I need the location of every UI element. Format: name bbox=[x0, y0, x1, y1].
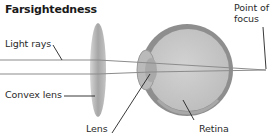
convex-lens-shape bbox=[90, 23, 106, 117]
label-point-of-focus: Point of focus bbox=[234, 2, 275, 24]
label-point-of-focus-line1: Point of bbox=[234, 2, 275, 13]
label-convex-lens: Convex lens bbox=[5, 89, 62, 100]
label-point-of-focus-line2: focus bbox=[234, 13, 275, 24]
lens-leader bbox=[112, 74, 150, 133]
label-lens: Lens bbox=[86, 123, 108, 134]
diagram-title: Farsightedness bbox=[5, 3, 97, 16]
light-rays-leader bbox=[53, 45, 62, 60]
label-retina: Retina bbox=[199, 123, 229, 134]
point-of-focus-leader bbox=[263, 27, 266, 69]
eyeball bbox=[137, 24, 233, 116]
label-light-rays: Light rays bbox=[5, 38, 51, 49]
